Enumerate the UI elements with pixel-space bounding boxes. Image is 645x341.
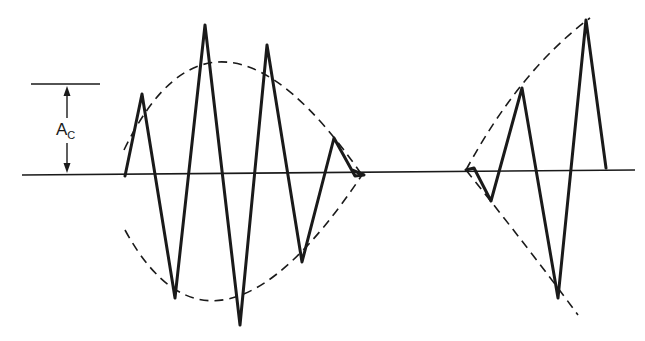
amplitude-marker: AC [31, 84, 100, 173]
arrow-up-icon [64, 86, 71, 96]
right-wave-packet [466, 18, 606, 315]
amplitude-label: AC [56, 120, 75, 141]
amplitude-label-main: A [56, 120, 68, 139]
arrow-down-icon [64, 163, 71, 173]
left-carrier-wave [125, 25, 364, 325]
left-wave-packet [124, 25, 364, 325]
amplitude-label-subscript: C [67, 129, 75, 141]
left-envelope-upper [124, 62, 362, 175]
right-envelope-lower [466, 170, 578, 315]
right-envelope-upper [466, 18, 590, 170]
baseline-axis [22, 170, 635, 175]
am-waveform-diagram: AC [0, 0, 645, 341]
right-carrier-wave [466, 20, 606, 298]
